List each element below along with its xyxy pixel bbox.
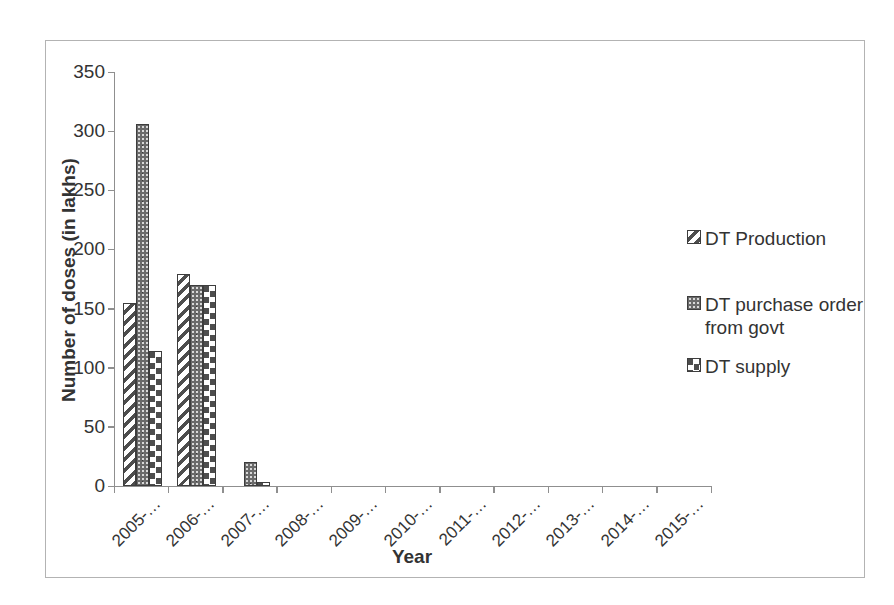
bar-diagonal-stripes-2006-… <box>177 274 190 486</box>
x-tick-mark <box>711 487 713 493</box>
y-tick-label: 300 <box>46 120 105 142</box>
y-tick-label: 50 <box>46 416 105 438</box>
legend-label-line: DT purchase order <box>705 294 863 315</box>
legend-item: DT Production <box>687 227 826 250</box>
x-axis-title: Year <box>262 546 562 568</box>
legend-label-line: from govt <box>705 317 784 338</box>
legend-swatch-dots-icon <box>687 296 701 310</box>
x-tick-mark <box>114 487 116 493</box>
y-tick-label: 150 <box>46 298 105 320</box>
x-tick-mark <box>385 487 387 493</box>
x-tick-mark <box>439 487 441 493</box>
y-tick-mark <box>108 308 114 310</box>
bar-checker-2007-… <box>257 482 270 486</box>
y-tick-mark <box>108 249 114 251</box>
bar-checker-2006-… <box>203 285 216 486</box>
y-tick-label: 350 <box>46 61 105 83</box>
y-tick-label: 200 <box>46 238 105 260</box>
y-tick-mark <box>108 190 114 192</box>
legend-label: DT Production <box>705 227 826 250</box>
bar-dots-2006-… <box>190 285 203 486</box>
legend-label-line: DT Production <box>705 228 826 249</box>
x-tick-mark <box>602 487 604 493</box>
legend-item: DT supply <box>687 355 790 378</box>
x-tick-mark <box>493 487 495 493</box>
y-tick-label: 100 <box>46 357 105 379</box>
chart-frame: Number of doses (in lakhs) Year DT Produ… <box>45 40 865 578</box>
legend-label: DT purchase orderfrom govt <box>705 293 863 339</box>
x-tick-mark <box>548 487 550 493</box>
legend-swatch-diagonal-stripes-icon <box>687 230 701 244</box>
x-tick-mark <box>222 487 224 493</box>
bar-diagonal-stripes-2005-… <box>123 303 136 486</box>
y-tick-mark <box>108 426 114 428</box>
y-tick-mark <box>108 72 114 74</box>
bar-dots-2007-… <box>244 462 257 486</box>
x-tick-mark <box>656 487 658 493</box>
x-tick-mark <box>331 487 333 493</box>
y-tick-mark <box>108 367 114 369</box>
x-tick-mark <box>276 487 278 493</box>
plot-area <box>114 72 712 487</box>
x-tick-mark <box>168 487 170 493</box>
scanned-page: Number of doses (in lakhs) Year DT Produ… <box>0 0 894 605</box>
legend-label-line: DT supply <box>705 356 790 377</box>
y-tick-label: 250 <box>46 179 105 201</box>
legend-item: DT purchase orderfrom govt <box>687 293 863 339</box>
bar-dots-2005-… <box>136 124 149 486</box>
y-tick-mark <box>108 131 114 133</box>
legend-swatch-checker-icon <box>687 358 701 372</box>
y-tick-label: 0 <box>46 475 105 497</box>
bar-checker-2005-… <box>149 351 162 486</box>
legend-label: DT supply <box>705 355 790 378</box>
